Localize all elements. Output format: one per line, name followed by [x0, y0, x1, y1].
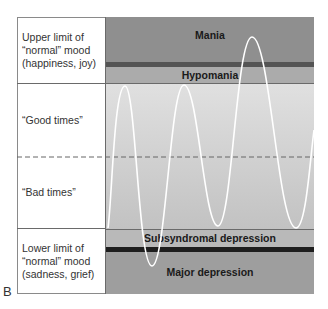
mood-curve	[108, 37, 314, 266]
panel-letter: B	[3, 284, 12, 299]
curve-overlay	[0, 0, 328, 309]
